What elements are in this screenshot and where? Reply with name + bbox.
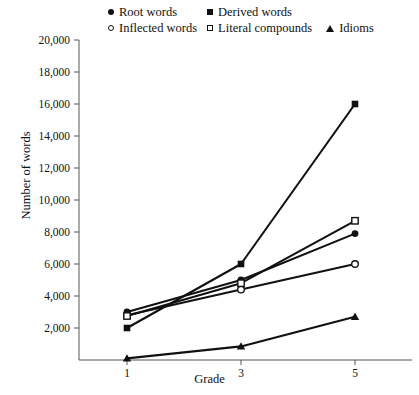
y-axis-tick-label: 20,000: [38, 34, 70, 47]
y-axis-tick-label: 14,000: [38, 130, 70, 143]
data-point-literal-compounds: [352, 218, 358, 224]
x-axis-title: Grade: [0, 372, 419, 387]
y-axis-title: Number of words: [19, 121, 34, 231]
y-axis-tick-label: 18,000: [38, 66, 70, 79]
data-point-inflected-words: [352, 261, 359, 268]
y-axis-tick-label: 16,000: [38, 98, 70, 111]
data-point-literal-compounds: [124, 313, 130, 319]
line-chart: Root words Derived words Inflected words…: [0, 0, 419, 395]
y-axis-tick-label: 4,000: [44, 290, 70, 303]
data-point-derived-words: [352, 101, 359, 108]
plot-area: 2,0004,0006,0008,00010,00012,00014,00016…: [0, 0, 419, 395]
series-line-derived-words: [127, 104, 355, 328]
series-line-root-words: [127, 234, 355, 312]
data-point-derived-words: [124, 325, 131, 332]
y-axis-tick-label: 2,000: [44, 322, 70, 335]
y-axis-tick-label: 6,000: [44, 258, 70, 271]
data-point-idioms: [351, 313, 359, 320]
data-point-derived-words: [238, 261, 245, 268]
y-axis-tick-label: 10,000: [38, 194, 70, 207]
data-point-literal-compounds: [238, 280, 244, 286]
series-line-idioms: [127, 317, 355, 359]
y-axis-tick-label: 12,000: [38, 162, 70, 175]
data-point-root-words: [352, 230, 359, 237]
data-point-inflected-words: [238, 286, 245, 293]
y-axis-tick-label: 8,000: [44, 226, 70, 239]
